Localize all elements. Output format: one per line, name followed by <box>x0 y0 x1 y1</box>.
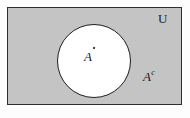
complement-set-label: Ac <box>143 70 155 83</box>
complement-base-letter: A <box>143 69 151 84</box>
venn-diagram-figure: U A Ac <box>0 0 190 118</box>
set-a-circle <box>57 24 131 98</box>
complement-superscript-c: c <box>151 68 155 77</box>
universal-set-label: U <box>158 12 168 25</box>
set-a-label: A <box>84 50 92 63</box>
